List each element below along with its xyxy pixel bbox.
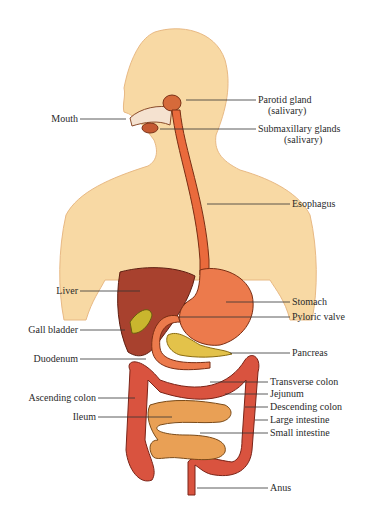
large-intestine (126, 356, 259, 495)
label-gall-bladder: Gall bladder (0, 324, 78, 335)
digestive-system-illustration (0, 0, 374, 523)
label-ascending-colon: Ascending colon (0, 392, 96, 403)
label-descending-colon: Descending colon (270, 401, 342, 412)
label-parotid-sub: (salivary) (268, 105, 306, 116)
label-submaxillary: Submaxillary glands (258, 123, 341, 134)
label-anus: Anus (270, 482, 291, 493)
label-liver: Liver (0, 285, 78, 296)
label-stomach: Stomach (292, 296, 327, 307)
label-submaxillary-sub: (salivary) (284, 134, 322, 145)
label-small-intestine: Small intestine (270, 427, 330, 438)
label-parotid: Parotid gland (258, 94, 312, 105)
label-esophagus: Esophagus (292, 198, 335, 209)
small-intestine (148, 400, 231, 459)
label-jejunum: Jejunum (270, 388, 304, 399)
label-pancreas: Pancreas (292, 347, 328, 358)
label-ileum: Ileum (0, 411, 96, 422)
label-transverse-colon: Transverse colon (270, 376, 338, 387)
submaxillary-glands (142, 123, 158, 133)
parotid-gland (163, 95, 181, 111)
label-pyloric: Pyloric valve (292, 311, 345, 322)
label-large-intestine: Large intestine (270, 414, 330, 425)
label-duodenum: Duodenum (0, 353, 78, 364)
label-mouth: Mouth (0, 113, 78, 124)
